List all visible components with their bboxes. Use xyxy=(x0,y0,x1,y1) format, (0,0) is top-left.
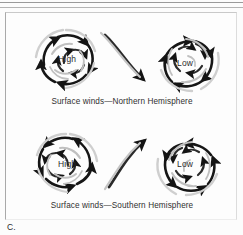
caption-southern-hemisphere: Surface winds—Southern Hemisphere xyxy=(6,201,238,210)
southern-wind-diagram xyxy=(6,117,238,203)
label-low-southern: Low xyxy=(177,159,193,169)
top-rule-secondary xyxy=(0,7,243,8)
northern-wind-diagram xyxy=(6,13,238,99)
figure-letter: C. xyxy=(7,222,16,232)
panel-southern-hemisphere: High Low Surface winds—Southern Hemisphe… xyxy=(6,117,238,221)
panel-northern-hemisphere: High Low Surface winds—Northern Hemisphe… xyxy=(6,13,238,117)
top-rule-primary xyxy=(0,2,243,3)
label-low-northern: Low xyxy=(177,58,193,68)
label-high-southern: High xyxy=(58,159,76,169)
caption-northern-hemisphere: Surface winds—Northern Hemisphere xyxy=(6,97,238,106)
figure-frame: High Low Surface winds—Northern Hemisphe… xyxy=(5,12,237,220)
figure-surface-winds: High Low Surface winds—Northern Hemisphe… xyxy=(0,0,243,235)
label-high-northern: High xyxy=(58,54,76,64)
